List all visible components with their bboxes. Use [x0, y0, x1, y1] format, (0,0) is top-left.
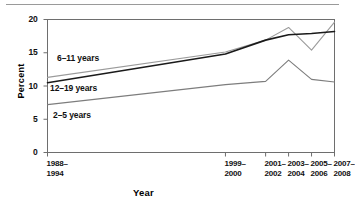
y-tick-label: 20 [22, 14, 38, 24]
y-axis-ticks [44, 20, 48, 153]
x-tick-label: 2005– 2006 [311, 159, 332, 180]
series-label-6-11-years: 6–11 years [57, 53, 99, 63]
x-axis-ticks [48, 153, 335, 157]
x-axis-title: Year [133, 187, 154, 198]
series-label-2-5-years: 2–5 years [53, 110, 91, 120]
series-label-12-19-years: 12–19 years [50, 83, 97, 93]
x-tick-label: 1999– 2000 [224, 159, 245, 180]
x-tick-label: 2001– 2002 [265, 159, 286, 180]
x-tick-label: 2007– 2008 [334, 159, 355, 180]
y-tick-label: 5 [22, 114, 38, 124]
x-tick-label: 2003– 2004 [288, 159, 309, 180]
series-line [48, 22, 335, 77]
y-axis-title: Percent [16, 51, 26, 111]
y-tick-label: 0 [22, 147, 38, 157]
x-tick-label: 1988– 1994 [47, 159, 68, 180]
